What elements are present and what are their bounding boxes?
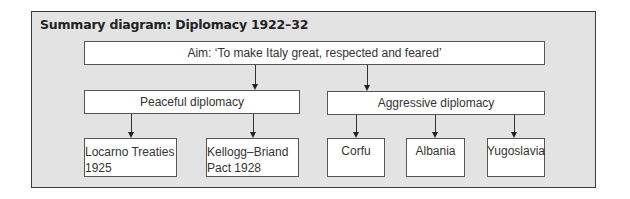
aggressive-label: Aggressive diplomacy [378,95,495,111]
locarno-line2: 1925 [85,160,112,176]
peaceful-label: Peaceful diplomacy [140,94,244,110]
aim-box: Aim: ‘To make Italy great, respected and… [84,41,545,65]
aim-text: Aim: ‘To make Italy great, respected and… [187,45,441,61]
connector-peaceful-locarno [131,114,132,132]
connector-aim-peaceful [255,65,256,84]
yugoslavia-box: Yugoslavia [487,138,545,177]
diagram-title: Summary diagram: Diplomacy 1922–32 [40,17,308,32]
corfu-box: Corfu [327,138,385,177]
albania-box: Albania [406,138,465,177]
albania-label: Albania [415,143,455,159]
kellogg-line2: Pact 1928 [207,160,261,176]
locarno-box: Locarno Treaties 1925 [84,138,177,177]
kellogg-briand-box: Kellogg–Briand Pact 1928 [206,138,299,177]
connector-peaceful-kellogg [253,114,254,132]
locarno-line1: Locarno Treaties [85,144,174,160]
corfu-label: Corfu [341,143,370,159]
connector-aim-aggressive [367,65,368,85]
connector-aggressive-albania [435,115,436,132]
connector-aggressive-yugoslavia [514,115,515,132]
yugoslavia-label: Yugoslavia [487,143,545,159]
aggressive-diplomacy-box: Aggressive diplomacy [327,91,545,115]
connector-aggressive-corfu [356,115,357,132]
peaceful-diplomacy-box: Peaceful diplomacy [84,90,300,114]
kellogg-line1: Kellogg–Briand [207,144,288,160]
